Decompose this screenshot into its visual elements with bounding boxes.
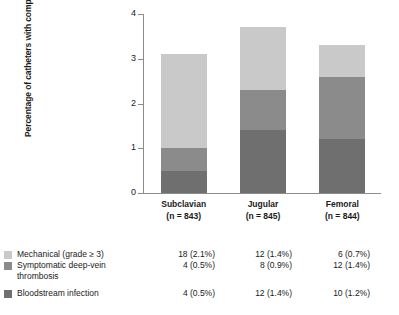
- legend-row: thrombosis: [0, 271, 399, 282]
- legend-value: 8 (0.9%): [232, 260, 292, 271]
- legend-swatch-icon: [4, 251, 12, 259]
- bar-jugular: [240, 27, 286, 193]
- legend-value: 12 (1.4%): [232, 288, 292, 299]
- bar-segment: [319, 45, 365, 76]
- legend-label: thrombosis: [17, 271, 59, 282]
- bar-segment: [240, 90, 286, 130]
- stacked-bar-chart: Percentage of catheters with complicatio…: [0, 0, 399, 315]
- category-label-subclavian: Subclavian(n = 843): [138, 198, 230, 223]
- legend-value: 4 (0.5%): [155, 288, 215, 299]
- category-count: (n = 843): [138, 210, 230, 222]
- category-label-femoral: Femoral(n = 844): [296, 198, 388, 223]
- y-tick-label-0: 0: [118, 188, 136, 197]
- legend-value: 12 (1.4%): [310, 260, 370, 271]
- y-tick-0: [138, 193, 144, 194]
- y-tick-label-2: 2: [118, 99, 136, 108]
- y-tick-label-3: 3: [118, 54, 136, 63]
- plot-area: Percentage of catheters with complicatio…: [0, 0, 399, 240]
- y-axis-title: Percentage of catheters with complicatio…: [23, 0, 34, 139]
- legend-value: 10 (1.2%): [310, 288, 370, 299]
- bar-subclavian: [161, 54, 207, 193]
- bar-segment: [161, 171, 207, 193]
- legend-row: Bloodstream infection4 (0.5%)12 (1.4%)10…: [0, 288, 399, 299]
- bar-segment: [161, 54, 207, 148]
- bar-segment: [240, 130, 286, 193]
- legend-label: Mechanical (grade ≥ 3): [17, 249, 104, 260]
- bar-segment: [161, 148, 207, 170]
- legend-value: 12 (1.4%): [232, 249, 292, 260]
- category-count: (n = 844): [296, 210, 388, 222]
- legend-row: Symptomatic deep-vein4 (0.5%)8 (0.9%)12 …: [0, 260, 399, 271]
- category-name: Subclavian: [138, 198, 230, 210]
- legend-label: Symptomatic deep-vein: [17, 260, 106, 271]
- y-tick-label-1: 1: [118, 143, 136, 152]
- bar-femoral: [319, 45, 365, 193]
- category-name: Femoral: [296, 198, 388, 210]
- category-count: (n = 845): [217, 210, 309, 222]
- bar-segment: [319, 77, 365, 140]
- category-label-jugular: Jugular(n = 845): [217, 198, 309, 223]
- legend-swatch-icon: [4, 290, 12, 298]
- bar-segment: [319, 139, 365, 193]
- legend-table: Mechanical (grade ≥ 3)18 (2.1%)12 (1.4%)…: [0, 249, 399, 299]
- legend-value: 4 (0.5%): [155, 260, 215, 271]
- legend-value: 6 (0.7%): [310, 249, 370, 260]
- x-axis-line: [143, 193, 381, 194]
- legend-value: 18 (2.1%): [155, 249, 215, 260]
- legend-label: Bloodstream infection: [17, 288, 99, 299]
- legend-row: Mechanical (grade ≥ 3)18 (2.1%)12 (1.4%)…: [0, 249, 399, 260]
- bar-segment: [240, 27, 286, 90]
- y-tick-label-4: 4: [118, 9, 136, 18]
- legend-swatch-icon: [4, 262, 12, 270]
- category-name: Jugular: [217, 198, 309, 210]
- bar-group: [144, 14, 382, 193]
